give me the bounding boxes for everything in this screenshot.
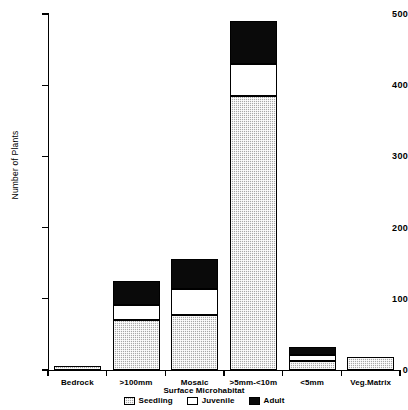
legend-item-adult[interactable]: Adult [249,396,285,405]
y-tick-200 [42,227,49,228]
x-tick-end [399,370,400,376]
bar-group[interactable] [347,357,394,370]
bar-segment-adult[interactable] [289,347,336,355]
bar-segment-juvenile[interactable] [113,305,160,320]
y-tick-100 [42,298,49,299]
bar-segment-adult[interactable] [171,259,218,289]
y-tick-500 [42,13,49,14]
x-tick-4 [282,370,283,376]
y-tick-400 [42,85,49,86]
y-tick-label-200: 200 [370,223,408,233]
y-axis-line [48,14,49,370]
bar-chart: Number of Plants 0100200300400500 Bedroc… [0,0,408,410]
bar-group[interactable] [230,21,277,370]
bar-segment-seedling[interactable] [347,357,394,370]
legend-label: Adult [264,396,285,405]
legend-swatch-adult-icon [249,397,260,405]
y-tick-300 [42,156,49,157]
bar-segment-juvenile[interactable] [289,355,336,361]
bar-segment-seedling[interactable] [113,320,160,370]
legend-swatch-juvenile-icon [187,397,198,405]
y-tick-label-300: 300 [370,151,408,161]
bar-group[interactable] [289,347,336,370]
y-tick-label-100: 100 [370,294,408,304]
legend-item-seedling[interactable]: Seedling [124,396,173,405]
x-axis-title: Surface Microhabitat [0,386,408,395]
x-tick-3 [223,370,224,376]
bar-segment-seedling[interactable] [171,315,218,370]
x-tick-1 [106,370,107,376]
bar-segment-juvenile[interactable] [230,64,277,96]
x-tick-2 [165,370,166,376]
y-tick-label-400: 400 [370,80,408,90]
bar-segment-adult[interactable] [113,281,160,305]
legend-label: Juvenile [202,396,235,405]
bar-segment-seedling[interactable] [289,361,336,370]
bar-group[interactable] [113,281,160,370]
bar-segment-juvenile[interactable] [171,289,218,315]
bar-group[interactable] [171,259,218,370]
y-tick-label-500: 500 [370,9,408,19]
legend-label: Seedling [139,396,173,405]
bar-segment-adult[interactable] [230,21,277,64]
bar-segment-seedling[interactable] [230,96,277,370]
chart-legend: SeedlingJuvenileAdult [0,396,408,405]
legend-item-juvenile[interactable]: Juvenile [187,396,235,405]
x-tick-5 [341,370,342,376]
x-tick-0 [47,370,48,376]
legend-swatch-seedling-icon [124,397,135,405]
y-axis-title: Number of Plants [10,110,20,220]
